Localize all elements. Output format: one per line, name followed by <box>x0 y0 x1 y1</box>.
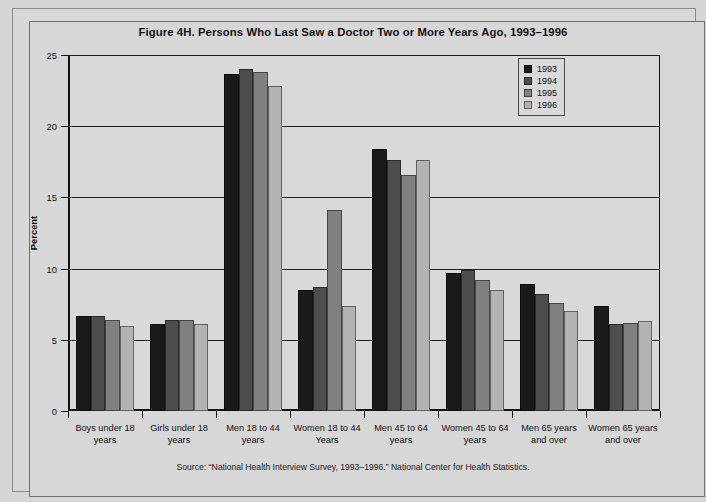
bar <box>549 303 564 411</box>
x-axis-tick <box>364 411 365 418</box>
y-axis-tick-label: 5 <box>52 334 57 345</box>
legend-label: 1995 <box>537 88 557 98</box>
legend-item: 1994 <box>524 75 557 87</box>
bar-group: Girls under 18 years <box>142 55 216 411</box>
bar <box>313 287 328 411</box>
bar <box>179 320 194 411</box>
x-axis-tick <box>660 411 661 418</box>
bar-group: Men 18 to 44 years <box>216 55 290 411</box>
bar-group: Women 65 years and over <box>586 55 660 411</box>
y-axis-title: Percent <box>28 216 39 250</box>
legend-label: 1996 <box>537 100 557 110</box>
figure-page: Figure 4H. Persons Who Last Saw a Doctor… <box>0 0 706 502</box>
chart-title: Figure 4H. Persons Who Last Saw a Doctor… <box>20 26 686 38</box>
bar <box>623 323 638 411</box>
bar-group: Boys under 18 years <box>68 55 142 411</box>
source-note: Source: “National Health Interview Surve… <box>20 462 686 472</box>
x-axis-tick <box>142 411 143 418</box>
y-axis-tick-label: 20 <box>47 121 57 132</box>
x-axis-tick <box>68 411 69 418</box>
legend-swatch <box>524 89 532 97</box>
bar-group: Women 18 to 44 Years <box>290 55 364 411</box>
bar <box>120 326 135 411</box>
bar <box>461 270 476 411</box>
bars-layer: Boys under 18 yearsGirls under 18 yearsM… <box>68 55 660 411</box>
x-axis-tick-label: Boys under 18 years <box>70 422 140 446</box>
bar <box>401 175 416 411</box>
legend-item: 1995 <box>524 87 557 99</box>
x-axis-tick-label: Men 65 years and over <box>514 422 584 446</box>
bar <box>224 74 239 411</box>
x-axis-tick <box>216 411 217 418</box>
x-axis-tick-label: Women 65 years and over <box>588 422 658 446</box>
y-axis-tick <box>61 411 68 412</box>
bar <box>446 273 461 411</box>
bar <box>490 290 505 411</box>
y-axis-tick-label: 25 <box>47 50 57 61</box>
bar <box>387 160 402 411</box>
bar <box>609 324 624 411</box>
x-axis-tick-label: Girls under 18 years <box>144 422 214 446</box>
bar <box>638 321 653 411</box>
chart-area: Percent 0510152025 Boys under 18 yearsGi… <box>68 55 660 411</box>
bar-group: Women 45 to 64 years <box>438 55 512 411</box>
y-axis-tick-label: 15 <box>47 192 57 203</box>
bar <box>372 149 387 411</box>
y-axis-tick <box>61 269 68 270</box>
legend-label: 1993 <box>537 64 557 74</box>
x-axis-tick <box>586 411 587 418</box>
y-axis-tick <box>61 55 68 56</box>
bar <box>253 72 268 411</box>
bar <box>105 320 120 411</box>
x-axis-tick <box>290 411 291 418</box>
bar <box>150 324 165 411</box>
bar <box>165 320 180 411</box>
legend-swatch <box>524 77 532 85</box>
y-axis-tick <box>61 340 68 341</box>
bar <box>76 316 91 411</box>
bar <box>594 306 609 411</box>
y-axis-tick <box>61 126 68 127</box>
legend-item: 1996 <box>524 99 557 111</box>
bar <box>194 324 209 411</box>
x-axis-tick <box>438 411 439 418</box>
x-axis-tick <box>512 411 513 418</box>
legend-item: 1993 <box>524 63 557 75</box>
bar <box>268 86 283 411</box>
bar <box>327 210 342 411</box>
legend-label: 1994 <box>537 76 557 86</box>
bar-group: Men 45 to 64 years <box>364 55 438 411</box>
chart-legend: 1993199419951996 <box>518 58 565 116</box>
x-axis-tick-label: Women 18 to 44 Years <box>292 422 362 446</box>
y-axis-tick-label: 0 <box>52 406 57 417</box>
x-axis-tick-label: Men 18 to 44 years <box>218 422 288 446</box>
y-axis-tick-label: 10 <box>47 263 57 274</box>
bar <box>520 284 535 411</box>
bar <box>239 69 254 411</box>
bar <box>342 306 357 411</box>
y-axis-tick <box>61 197 68 198</box>
legend-swatch <box>524 101 532 109</box>
bar <box>475 280 490 411</box>
bar <box>298 290 313 411</box>
x-axis-tick-label: Women 45 to 64 years <box>440 422 510 446</box>
bar <box>91 316 106 411</box>
bar <box>564 311 579 411</box>
bar <box>535 294 550 411</box>
x-axis-tick-label: Men 45 to 64 years <box>366 422 436 446</box>
bar <box>416 160 431 411</box>
legend-swatch <box>524 65 532 73</box>
